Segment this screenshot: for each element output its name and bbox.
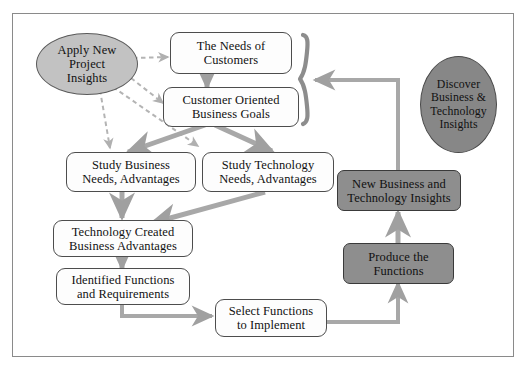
apply-line-2: Project <box>55 57 120 71</box>
node-customer-oriented-business-goals[interactable]: Customer Oriented Business Goals <box>163 87 299 127</box>
goals-line-1: Customer Oriented <box>179 93 282 107</box>
study-business-line-2: Needs, Advantages <box>79 172 183 186</box>
discover-line-3: Technology <box>427 105 490 118</box>
tech-created-line-1: Technology Created <box>66 225 180 239</box>
needs-line-1: The Needs of <box>194 39 269 53</box>
node-produce-the-functions[interactable]: Produce the Functions <box>343 243 454 284</box>
identified-line-1: Identified Functions <box>68 273 177 287</box>
discover-line-4: Insights <box>427 118 490 131</box>
apply-line-1: Apply New <box>55 43 120 57</box>
node-select-functions-to-implement[interactable]: Select Functions to Implement <box>215 299 327 337</box>
new-insights-line-2: Technology Insights <box>344 191 453 205</box>
discover-line-2: Business & <box>427 91 490 104</box>
new-insights-line-1: New Business and <box>344 177 453 191</box>
study-tech-line-2: Needs, Advantages <box>216 172 320 186</box>
needs-line-2: Customers <box>194 53 269 67</box>
tech-created-line-2: Business Advantages <box>66 239 180 253</box>
node-technology-created-business-advantages[interactable]: Technology Created Business Advantages <box>53 220 193 257</box>
goals-line-2: Business Goals <box>179 107 282 121</box>
identified-line-2: and Requirements <box>68 287 177 301</box>
node-study-technology-needs-advantages[interactable]: Study Technology Needs, Advantages <box>202 152 334 192</box>
node-identified-functions-and-requirements[interactable]: Identified Functions and Requirements <box>56 268 190 305</box>
apply-line-3: Insights <box>55 71 120 85</box>
node-discover-business-technology-insights[interactable]: Discover Business & Technology Insights <box>420 56 497 153</box>
select-line-1: Select Functions <box>226 304 317 318</box>
diagram-canvas: Apply New Project Insights The Needs of … <box>0 0 528 372</box>
produce-line-2: Functions <box>365 264 431 278</box>
node-the-needs-of-customers[interactable]: The Needs of Customers <box>170 32 292 74</box>
select-line-2: to Implement <box>226 318 317 332</box>
produce-line-1: Produce the <box>365 250 431 264</box>
study-business-line-1: Study Business <box>79 158 183 172</box>
node-apply-new-project-insights[interactable]: Apply New Project Insights <box>36 33 138 95</box>
node-new-business-and-technology-insights[interactable]: New Business and Technology Insights <box>337 170 461 211</box>
node-study-business-needs-advantages[interactable]: Study Business Needs, Advantages <box>66 152 196 192</box>
study-tech-line-1: Study Technology <box>216 158 320 172</box>
